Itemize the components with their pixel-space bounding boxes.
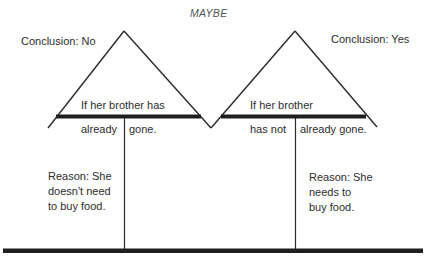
right-condition-bar	[221, 115, 366, 119]
left-conclusion: Conclusion: No	[21, 34, 96, 48]
right-condition-bottom-right: already gone.	[300, 122, 367, 136]
diagram-title: MAYBE	[190, 6, 227, 20]
left-condition-bottom-left: already	[81, 122, 117, 136]
left-reason-line: Reason: She	[48, 169, 112, 184]
right-reason: Reason: She needs to buy food.	[309, 170, 373, 215]
left-condition-bar	[56, 115, 201, 119]
right-condition-bottom-left: has not	[250, 122, 286, 136]
right-reason-line: needs to	[309, 185, 373, 200]
left-reason-line: to buy food.	[48, 199, 112, 214]
right-conclusion: Conclusion: Yes	[331, 32, 409, 46]
ground-bar	[3, 249, 423, 254]
right-reason-line: buy food.	[309, 200, 373, 215]
left-condition-top: If her brother has	[81, 98, 165, 112]
left-condition-bottom-right: gone.	[129, 122, 157, 136]
left-reason: Reason: She doesn't need to buy food.	[48, 169, 112, 214]
right-reason-line: Reason: She	[309, 170, 373, 185]
right-condition-top: If her brother	[250, 98, 313, 112]
left-reason-line: doesn't need	[48, 184, 112, 199]
